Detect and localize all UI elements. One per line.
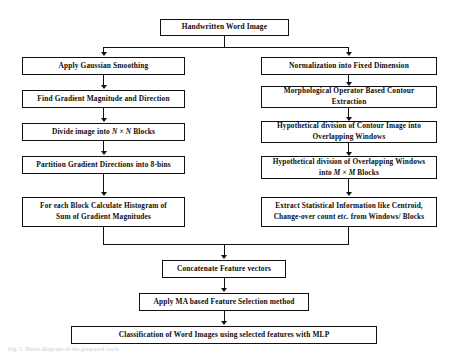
edge-split-bus xyxy=(103,47,349,48)
arrow-to-right-col xyxy=(346,52,352,56)
node-label: For each Block Calculate Histogram of Su… xyxy=(26,201,181,222)
arrow-to-concatenate xyxy=(221,255,227,259)
node-label: Handwritten Word Image xyxy=(164,22,285,33)
node-label: Find Gradient Magnitude and Direction xyxy=(26,94,181,105)
arrow-merge-1 xyxy=(221,288,227,292)
figure-caption: Fig. 1. Block diagram of the proposed wo… xyxy=(8,346,158,353)
node-label: Normalization into Fixed Dimension xyxy=(265,61,433,72)
node-label: Apply Gaussian Smoothing xyxy=(26,61,181,72)
node-label: Classification of Word Images using sele… xyxy=(75,330,373,341)
arrow-left-1 xyxy=(101,85,107,89)
edge-left-4 xyxy=(103,174,104,193)
edge-right-merge-drop xyxy=(348,227,349,245)
arrow-left-3 xyxy=(101,151,107,155)
node-apply-gaussian-smoothing: Apply Gaussian Smoothing xyxy=(22,57,185,75)
node-block-histogram-gradient-magnitudes: For each Block Calculate Histogram of Su… xyxy=(22,197,185,227)
arrow-merge-2 xyxy=(221,321,227,325)
node-label: Hypothetical division of Contour Image i… xyxy=(265,121,433,142)
node-hypothetical-division-contour-image: Hypothetical division of Contour Image i… xyxy=(261,121,437,143)
edge-left-merge-drop xyxy=(103,227,104,245)
node-partition-gradient-directions: Partition Gradient Directions into 8-bin… xyxy=(22,156,185,174)
edge-merge-bus xyxy=(103,244,349,245)
node-label: Divide image into N × N Blocks xyxy=(26,127,181,138)
arrow-left-2 xyxy=(101,118,107,122)
node-extract-statistical-information: Extract Statistical Information like Cen… xyxy=(261,197,437,227)
node-concatenate-feature-vectors: Concatenate Feature vectors xyxy=(162,260,286,278)
arrow-right-4 xyxy=(346,192,352,196)
flowchart-canvas: Handwritten Word Image Apply Gaussian Sm… xyxy=(0,0,461,354)
node-handwritten-word-image: Handwritten Word Image xyxy=(160,19,289,36)
node-hypothetical-division-overlapping-windows: Hypothetical division of Overlapping Win… xyxy=(261,156,437,179)
edge-right-4 xyxy=(348,179,349,193)
node-normalization-fixed-dimension: Normalization into Fixed Dimension xyxy=(261,57,437,75)
node-label: Concatenate Feature vectors xyxy=(166,264,282,275)
arrow-left-4 xyxy=(101,192,107,196)
node-label: Morphological Operator Based Contour Ext… xyxy=(265,86,433,107)
node-morphological-operator-contour-extraction: Morphological Operator Based Contour Ext… xyxy=(261,86,437,108)
node-label: Hypothetical division of Overlapping Win… xyxy=(265,157,433,178)
node-label: Partition Gradient Directions into 8-bin… xyxy=(26,160,181,171)
node-find-gradient-magnitude-direction: Find Gradient Magnitude and Direction xyxy=(22,90,185,108)
node-apply-ma-feature-selection: Apply MA based Feature Selection method xyxy=(139,293,309,311)
node-label: Apply MA based Feature Selection method xyxy=(143,297,305,308)
node-label: Extract Statistical Information like Cen… xyxy=(265,201,433,222)
node-divide-image-into-blocks: Divide image into N × N Blocks xyxy=(22,123,185,141)
arrow-to-left-col xyxy=(101,52,107,56)
node-classification-word-images-mlp: Classification of Word Images using sele… xyxy=(71,326,377,344)
